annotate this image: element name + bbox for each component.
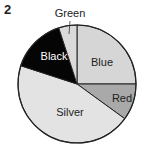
slice-label-red: Red [112,92,132,104]
slice-label-black: Black [41,50,68,62]
slice-label-silver: Silver [56,106,84,118]
pie-slice-blue [77,25,136,84]
pie-chart: BlueRedSilverBlackGreen [0,0,147,152]
slice-label-blue: Blue [91,56,113,68]
slice-label-green: Green [55,7,86,19]
